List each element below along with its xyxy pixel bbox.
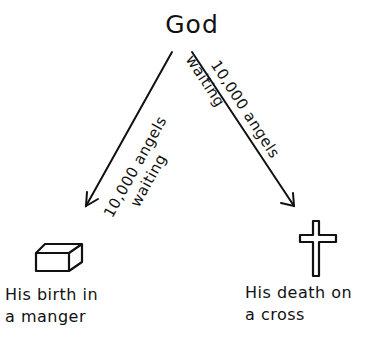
manger-caption: His birth in a manger bbox=[5, 284, 98, 328]
manger-caption-line1: His birth in bbox=[5, 284, 98, 306]
manger-box-icon bbox=[36, 244, 82, 271]
cross-caption: His death on a cross bbox=[245, 282, 352, 326]
cross-caption-line1: His death on bbox=[245, 282, 352, 304]
manger-caption-line2: a manger bbox=[5, 306, 98, 328]
cross-caption-line2: a cross bbox=[245, 304, 352, 326]
cross-icon bbox=[300, 221, 336, 276]
